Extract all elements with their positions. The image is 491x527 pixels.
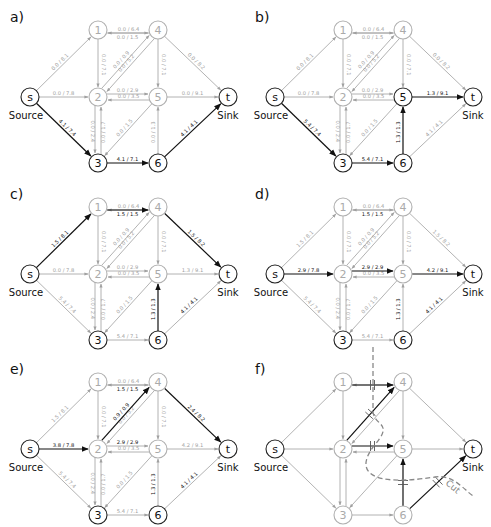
node-3: 3 [89,506,107,524]
node-5: 5 [394,88,412,106]
edge-flow-label: 4.1 / 7.1 [117,156,139,162]
panel-a: a)0.0 / 8.10.0 / 7.84.1 / 7.40.0 / 6.40.… [9,9,239,172]
edge-flow-label: 0.0 / 6.4 [118,26,140,32]
edge-s-3 [36,103,90,156]
edge-flow-label: 4.1 / 4.1 [179,471,199,490]
node-2: 2 [334,88,352,106]
edge-2-4 [347,212,394,265]
edge-2-4 [347,387,394,440]
edge-flow-label: 1.3 / 1.3 [395,299,401,321]
edge-flow-label: 0.0 / 7.1 [101,406,107,428]
node-5: 5 [149,440,167,458]
node-6: 6 [394,154,412,172]
node-label: 4 [400,201,407,214]
node-s: s [21,265,39,283]
edge-flow-label: 0.0 / 1.5 [115,470,134,490]
edge-flow-label: 1.5 / 1.5 [117,386,139,392]
edge-s-3 [36,455,90,508]
edge-flow-label: 0.0 / 1.5 [360,118,379,138]
node-6: 6 [149,506,167,524]
edge-flow-label: 0.0 / 2.9 [117,264,139,270]
edge-flow-label: 0.0 / 7.1 [161,54,167,76]
node-label: 1 [95,24,102,37]
node-6: 6 [394,506,412,524]
edge-flow-label: 0.0 / 2.4 [335,121,341,143]
panel-e: e)1.5 / 8.13.8 / 7.85.4 / 7.40.0 / 6.41.… [9,361,239,524]
panel-c: c)1.5 / 8.10.0 / 7.85.4 / 7.40.0 / 6.41.… [9,186,239,349]
edge-s-3 [281,280,335,333]
edge-flow-label: 0.0 / 6.4 [363,26,385,32]
node-label: 3 [95,334,102,347]
edge-flow-label: 5.4 / 7.4 [58,470,78,490]
node-4: 4 [149,21,167,39]
node-1: 1 [334,198,352,216]
edge-4-t [410,36,466,90]
edge-flow-label: 3.8 / 7.8 [53,442,75,448]
edge-5-3 [105,456,152,508]
node-label: 1 [95,376,102,389]
edge-s-1 [281,37,335,91]
panel-b: b)0.0 / 8.10.0 / 7.85.4 / 7.40.0 / 6.40.… [254,9,484,172]
node-t: t [464,440,482,458]
source-label: Source [9,462,43,473]
node-label: 1 [95,201,102,214]
node-label: 5 [400,268,407,281]
node-label: 6 [400,157,407,170]
node-4: 4 [394,373,412,391]
edge-flow-label: 0.0 / 1.7 [100,299,106,321]
edge-flow-label: 1.3 / 9.1 [427,90,449,96]
edge-flow-label: 4.1 / 4.1 [424,296,444,315]
edge-flow-label: 1.5 / 1.5 [362,211,384,217]
node-2: 2 [89,265,107,283]
edge-flow-label: 0.0 / 9.1 [182,90,204,96]
edge-flow-label: 4.1 / 4.1 [424,119,444,138]
node-label: 1 [340,24,347,37]
node-t: t [464,265,482,283]
node-label: 5 [155,443,162,456]
edge-2-4 [102,35,149,88]
node-5: 5 [149,88,167,106]
edge-4-2 [352,391,399,444]
edge-flow-label: 5.4 / 7.4 [303,295,323,315]
node-label: 2 [95,443,102,456]
edge-flow-label: 1.5 / 8.2 [432,228,452,247]
source-label: Source [254,462,288,473]
node-label: 2 [95,268,102,281]
sink-label: Sink [462,462,483,473]
panel-label: b) [255,9,269,25]
edge-5-3 [350,281,397,333]
panel-label: f) [255,361,265,377]
edge-s-3 [36,280,90,333]
node-t: t [219,265,237,283]
edge-flow-label: 4.2 / 9.1 [182,442,204,448]
node-label: s [27,91,33,104]
node-label: 2 [340,91,347,104]
edge-s-1 [36,389,90,443]
edge-flow-label: 0.0 / 7.8 [53,90,75,96]
node-label: t [226,91,231,104]
node-label: 5 [155,268,162,281]
edge-flow-label: 5.4 / 7.1 [362,333,384,339]
node-label: s [272,91,278,104]
edge-flow-label: 0.0 / 6.4 [118,378,140,384]
node-6: 6 [149,154,167,172]
node-3: 3 [89,331,107,349]
node-3: 3 [334,506,352,524]
edge-flow-label: 1.3 / 1.3 [150,299,156,321]
node-label: 3 [95,157,102,170]
node-label: 4 [155,376,162,389]
edge-s-3 [281,103,335,156]
sink-label: Sink [462,287,483,298]
node-t: t [219,440,237,458]
node-t: t [464,88,482,106]
node-label: 3 [340,157,347,170]
sink-label: Sink [217,110,238,121]
cut-line [366,347,475,497]
node-label: 4 [155,24,162,37]
edge-flow-label: 4.1 / 7.4 [58,118,78,138]
node-4: 4 [149,373,167,391]
node-5: 5 [149,265,167,283]
edge-flow-label: 0.0 / 1.5 [362,34,384,40]
node-label: t [226,443,231,456]
edge-s-1 [281,389,335,443]
